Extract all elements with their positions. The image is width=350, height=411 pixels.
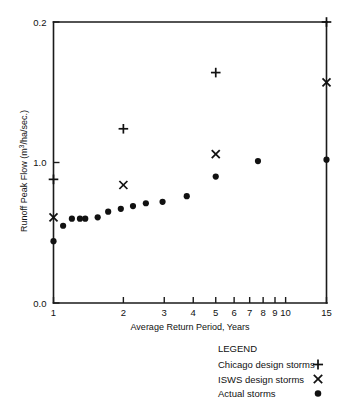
data-point-actual-storm xyxy=(118,206,124,212)
series-chicago-design-storms xyxy=(49,17,332,184)
legend-item-marker xyxy=(314,375,322,383)
data-point-actual-storm xyxy=(105,209,111,215)
y-tick-label: 0.0 xyxy=(33,298,46,309)
x-tick-label: 2 xyxy=(121,307,126,318)
x-axis-title: Average Return Period, Years xyxy=(131,322,250,332)
data-point-actual-storm xyxy=(95,214,101,220)
data-series-layer xyxy=(49,17,332,244)
legend-item-label: Chicago design storms xyxy=(218,359,315,370)
x-tick-label: 1 xyxy=(51,307,56,318)
x-tick-label: 15 xyxy=(321,307,332,318)
legend: LEGEND Chicago design stormsISWS design … xyxy=(218,343,323,399)
legend-item-label: ISWS design storms xyxy=(218,374,304,385)
series-actual-storms xyxy=(50,157,329,245)
x-tick-label: 3 xyxy=(162,307,167,318)
data-point-actual-storm xyxy=(213,173,219,179)
x-tick-label: 6 xyxy=(231,307,236,318)
y-axis-title: Runoff Peak Flow (m3/ha/sec.) xyxy=(18,110,29,232)
series-isws-design-storms xyxy=(50,78,331,221)
data-point-actual-storm xyxy=(77,216,83,222)
legend-item-marker xyxy=(315,390,322,397)
y-axis-title-post: /ha/sec.) xyxy=(19,110,29,145)
x-tick-label: 4 xyxy=(191,307,196,318)
y-tick-label: 0.2 xyxy=(33,17,46,28)
data-point-isws-design-storm xyxy=(212,150,220,158)
data-point-actual-storm xyxy=(315,390,322,397)
data-point-chicago-design-storm xyxy=(322,17,332,27)
plot-frame xyxy=(54,22,328,303)
y-axis-title-pre: Runoff Peak Flow (m xyxy=(19,148,29,232)
x-tick-label: 8 xyxy=(260,307,265,318)
x-axis-ticks: 1234567891015 xyxy=(51,297,332,318)
y-tick-label: 1.0 xyxy=(33,157,46,168)
data-point-actual-storm xyxy=(323,157,329,163)
data-point-actual-storm xyxy=(143,200,149,206)
figure-container: Runoff Peak Flow (m3/ha/sec.) 0.01.00.2 … xyxy=(0,0,350,411)
runoff-peak-flow-scatter-chart: Runoff Peak Flow (m3/ha/sec.) 0.01.00.2 … xyxy=(0,0,350,411)
data-point-actual-storm xyxy=(69,216,75,222)
x-tick-label: 5 xyxy=(213,307,218,318)
svg-text:Runoff Peak Flow (m3/ha/sec.): Runoff Peak Flow (m3/ha/sec.) xyxy=(18,110,29,232)
legend-items: Chicago design stormsISWS design stormsA… xyxy=(218,359,323,399)
data-point-actual-storm xyxy=(130,203,136,209)
legend-title: LEGEND xyxy=(218,343,257,354)
data-point-chicago-design-storm xyxy=(119,124,129,134)
x-tick-label: 7 xyxy=(247,307,252,318)
y-axis-ticks: 0.01.00.2 xyxy=(33,17,59,309)
data-point-actual-storm xyxy=(50,238,56,244)
data-point-isws-design-storm xyxy=(119,181,127,189)
data-point-actual-storm xyxy=(159,199,165,205)
data-point-isws-design-storm xyxy=(314,375,322,383)
x-tick-label: 9 xyxy=(272,307,277,318)
data-point-actual-storm xyxy=(82,216,88,222)
x-tick-label: 10 xyxy=(280,307,291,318)
data-point-actual-storm xyxy=(255,158,261,164)
data-point-actual-storm xyxy=(184,193,190,199)
legend-item-label: Actual storms xyxy=(218,388,276,399)
data-point-actual-storm xyxy=(60,223,66,229)
data-point-chicago-design-storm xyxy=(49,175,59,185)
data-point-chicago-design-storm xyxy=(211,68,221,78)
